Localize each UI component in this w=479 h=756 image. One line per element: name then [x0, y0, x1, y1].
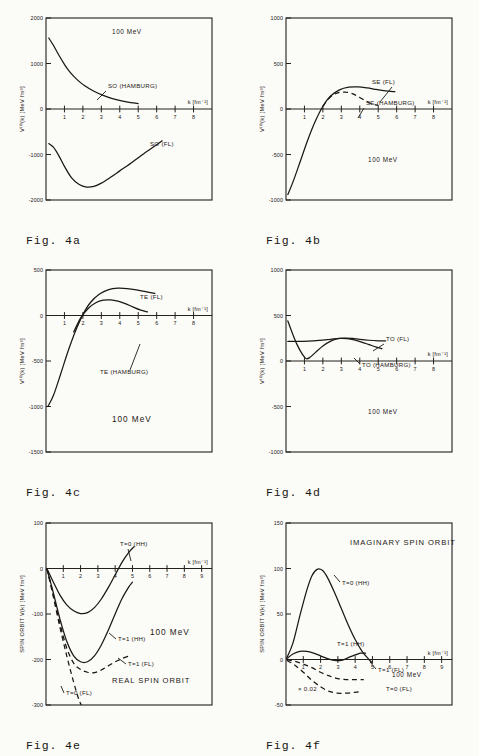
- x-tick-label: 6: [148, 573, 151, 579]
- figure-caption-4b: Fig. 4b: [266, 234, 321, 247]
- x-axis-label: k [fm⁻¹]: [428, 650, 449, 656]
- curve-label-t0-hh: T=0 (HH): [342, 579, 370, 586]
- curve-label-so-hamburg: SO (HAMBURG): [108, 82, 157, 89]
- curve-label-to-fl: TO (FL): [386, 335, 409, 342]
- panel-4a: 12345678200010000-1000-2000k [fm⁻¹]V⁽⁰⁾(…: [0, 0, 239, 251]
- x-axis-label: k [fm⁻¹]: [428, 351, 449, 357]
- curve-label-so-fl: SO (FL): [150, 140, 174, 147]
- x-tick-label: 8: [423, 664, 426, 670]
- x-tick-label: 5: [377, 114, 380, 120]
- x-tick-label: 3: [100, 114, 103, 120]
- energy-annotation: 100 MeV: [368, 156, 398, 163]
- y-axis-label: V⁽⁰⁾(k) [MeV fm³]: [19, 86, 25, 132]
- x-tick-label: 7: [414, 114, 417, 120]
- panel-title: IMAGINARY SPIN ORBIT: [350, 538, 456, 547]
- curve-t-0-hh: [47, 547, 134, 614]
- energy-annotation: 100 MeV: [112, 28, 142, 35]
- leader-line: [118, 658, 126, 664]
- y-tick-label: -300: [32, 702, 43, 708]
- y-tick-label: -1000: [269, 449, 283, 455]
- y-tick-label: 0: [40, 313, 43, 319]
- y-tick-label: 0: [280, 106, 283, 112]
- x-tick-label: 9: [440, 664, 443, 670]
- x-axis-label: k [fm⁻¹]: [188, 306, 209, 312]
- x-tick-label: 1: [63, 114, 66, 120]
- plot-area-4d: 1234567810005000-500-1000k [fm⁻¹]V⁽⁰⁾(k)…: [240, 252, 479, 467]
- curve-t-0-fl: [47, 569, 82, 706]
- x-tick-label: 7: [414, 366, 417, 372]
- x-tick-label: 8: [192, 114, 195, 120]
- figure-caption-4e: Fig. 4e: [26, 739, 81, 752]
- y-tick-label: 100: [274, 566, 283, 572]
- x-tick-label: 6: [395, 114, 398, 120]
- figure-caption-4c: Fig. 4c: [26, 486, 81, 499]
- leader-line: [373, 344, 384, 351]
- y-tick-label: -2000: [29, 197, 43, 203]
- x-tick-label: 7: [174, 114, 177, 120]
- y-tick-label: -1000: [29, 404, 43, 410]
- curve-so-fl: [49, 141, 162, 187]
- x-tick-label: 4: [118, 114, 121, 120]
- curve-to-fl: [288, 321, 386, 359]
- x-axis-label: k [fm⁻¹]: [428, 99, 449, 105]
- x-tick-label: 2: [319, 664, 322, 670]
- x-axis-label: k [fm⁻¹]: [188, 559, 209, 565]
- plot-frame: [46, 270, 212, 452]
- leader-line: [109, 633, 116, 639]
- x-tick-label: 1: [63, 320, 66, 326]
- y-tick-label: 0: [40, 106, 43, 112]
- x-tick-label: 2: [81, 320, 84, 326]
- energy-annotation: 100 MeV: [392, 671, 422, 678]
- x-tick-label: 3: [96, 573, 99, 579]
- x-axis-label: k [fm⁻¹]: [188, 99, 209, 105]
- plot-area-4c: 123456785000-500-1000-1500k [fm⁻¹]V⁽⁰⁾(k…: [0, 252, 239, 467]
- curve-label-t0-hh: T=0 (HH): [120, 540, 148, 547]
- curve-t-1-fl: [47, 569, 129, 673]
- plot-area-4e: 1234567891000-100-200-300k [fm⁻¹]SPIN OR…: [0, 505, 239, 720]
- curve-label-te-hamburg: TE (HAMBURG): [100, 368, 148, 375]
- x-tick-label: 6: [155, 320, 158, 326]
- y-tick-label: -500: [272, 152, 283, 158]
- x-tick-label: 8: [432, 114, 435, 120]
- x-tick-label: 2: [321, 366, 324, 372]
- panel-title: REAL SPIN ORBIT: [112, 676, 190, 685]
- curve-label-t1-hh: T=1 (HH): [118, 635, 146, 642]
- y-tick-label: 50: [277, 611, 283, 617]
- y-tick-label: 100: [34, 520, 43, 526]
- curve-label-t0-fl: T=0 (FL): [66, 689, 92, 696]
- panel-4c: 123456785000-500-1000-1500k [fm⁻¹]V⁽⁰⁾(k…: [0, 252, 239, 503]
- x-tick-label: 3: [340, 114, 343, 120]
- y-tick-label: -500: [32, 358, 43, 364]
- y-tick-label: -500: [272, 404, 283, 410]
- curve-label-to-hamburg: TO (HAMBURG): [362, 361, 411, 368]
- x-tick-label: 6: [155, 114, 158, 120]
- panel-4f: 123456789150100500-50k [fm⁻¹]SPIN ORBIT …: [240, 505, 479, 756]
- curve-t-1-fl: [287, 660, 364, 680]
- y-axis-label: V⁽⁰⁾(k) [MeV fm³]: [259, 86, 265, 132]
- x-tick-label: 3: [340, 366, 343, 372]
- y-tick-label: 1000: [271, 267, 283, 273]
- x-tick-label: 2: [321, 114, 324, 120]
- y-tick-label: -1000: [29, 152, 43, 158]
- x-tick-label: 9: [200, 573, 203, 579]
- scale-annotation: × 0.02: [298, 685, 317, 692]
- panel-4d: 1234567810005000-500-1000k [fm⁻¹]V⁽⁰⁾(k)…: [240, 252, 479, 503]
- x-tick-label: 8: [192, 320, 195, 326]
- x-tick-label: 3: [336, 664, 339, 670]
- x-tick-label: 4: [118, 320, 121, 326]
- y-tick-label: 2000: [31, 15, 43, 21]
- curve-label-t0-fl: T=0 (FL): [386, 685, 412, 692]
- x-tick-label: 5: [137, 114, 140, 120]
- energy-annotation: 100 MeV: [112, 415, 152, 424]
- y-tick-label: -1000: [269, 197, 283, 203]
- plot-frame: [286, 523, 452, 705]
- y-tick-label: 0: [40, 566, 43, 572]
- y-axis-label: V⁽⁰⁾(k) [MeV fm³]: [259, 338, 265, 384]
- x-tick-label: 7: [166, 573, 169, 579]
- x-tick-label: 7: [174, 320, 177, 326]
- figure-caption-4a: Fig. 4a: [26, 234, 81, 247]
- leader-line: [130, 344, 140, 370]
- curve-label-t1-fl: T=1 (FL): [128, 660, 154, 667]
- x-tick-label: 4: [358, 366, 361, 372]
- y-tick-label: 500: [274, 61, 283, 67]
